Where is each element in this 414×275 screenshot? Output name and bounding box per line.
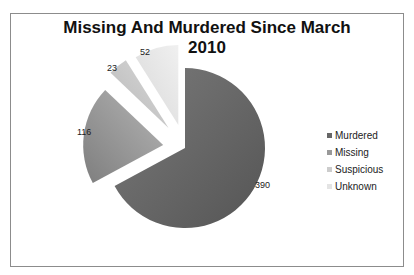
legend-label: Murdered xyxy=(335,130,378,141)
legend: Murdered Missing Suspicious Unknown xyxy=(327,127,383,195)
legend-item-missing: Missing xyxy=(327,144,383,161)
legend-item-murdered: Murdered xyxy=(327,127,383,144)
swatch-suspicious xyxy=(327,167,332,172)
legend-label: Unknown xyxy=(335,181,377,192)
label-murdered: 390 xyxy=(255,180,270,190)
label-suspicious: 23 xyxy=(107,63,117,73)
label-missing: 116 xyxy=(77,127,91,137)
legend-item-unknown: Unknown xyxy=(327,178,383,195)
swatch-murdered xyxy=(327,133,332,138)
legend-item-suspicious: Suspicious xyxy=(327,161,383,178)
swatch-unknown xyxy=(327,184,332,189)
legend-label: Suspicious xyxy=(335,164,383,175)
swatch-missing xyxy=(327,150,332,155)
legend-label: Missing xyxy=(335,147,369,158)
label-unknown: 52 xyxy=(140,47,150,57)
